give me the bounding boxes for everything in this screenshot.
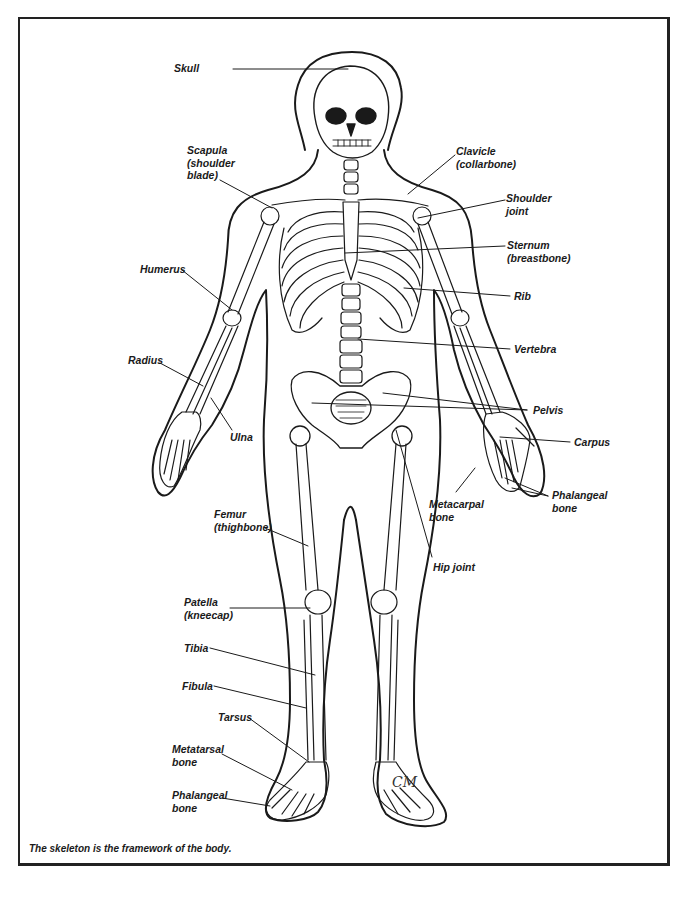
label-fibula: Fibula (182, 680, 213, 693)
label-shoulder-joint: Shoulder joint (506, 192, 552, 217)
spine-drawing (340, 160, 362, 383)
leg-bones-drawing (266, 444, 433, 820)
leader-line-ulna (211, 398, 232, 430)
label-sternum: Sternum (breastbone) (507, 239, 571, 264)
label-clavicle: Clavicle (collarbone) (456, 145, 516, 170)
leader-line-phalangeal-foot (222, 798, 270, 806)
leader-line-rib (404, 288, 510, 296)
label-radius: Radius (128, 354, 163, 367)
label-metatarsal: Metatarsal bone (172, 743, 224, 768)
leader-line-scapula (220, 180, 272, 208)
label-rib: Rib (514, 290, 531, 303)
arm-bones-drawing (160, 207, 534, 491)
label-ulna: Ulna (230, 431, 253, 444)
label-tarsus: Tarsus (218, 711, 252, 724)
label-patella: Patella (kneecap) (184, 596, 233, 621)
leader-line-hip-joint (396, 430, 432, 557)
label-femur: Femur (thighbone) (214, 508, 272, 533)
label-carpus: Carpus (574, 436, 610, 449)
figure-caption: The skeleton is the framework of the bod… (29, 843, 231, 854)
label-vertebra: Vertebra (514, 343, 556, 356)
label-tibia: Tibia (184, 642, 208, 655)
leader-line-metatarsal (222, 754, 292, 790)
skeleton-illustration (0, 0, 692, 907)
label-metacarpal: Metacarpal bone (429, 498, 484, 523)
leader-line-clavicle (408, 155, 455, 194)
leader-line-fibula (214, 686, 306, 708)
label-scapula: Scapula (shoulder blade) (187, 144, 235, 182)
leader-line-shoulder-joint (418, 200, 505, 218)
skull-drawing (314, 66, 389, 158)
leader-line-tibia (210, 648, 315, 675)
leader-line-metacarpal (456, 468, 475, 492)
leader-line-vertebra (358, 339, 510, 349)
label-humerus: Humerus (140, 263, 186, 276)
label-hip-joint: Hip joint (433, 561, 475, 574)
leader-line-tarsus (249, 718, 309, 762)
label-phalangeal-hand: Phalangeal bone (552, 489, 607, 514)
label-skull: Skull (174, 62, 199, 75)
label-phalangeal-foot: Phalangeal bone (172, 789, 227, 814)
artist-signature: CM (392, 774, 417, 790)
leader-line-radius (160, 363, 203, 386)
label-pelvis: Pelvis (533, 404, 563, 417)
